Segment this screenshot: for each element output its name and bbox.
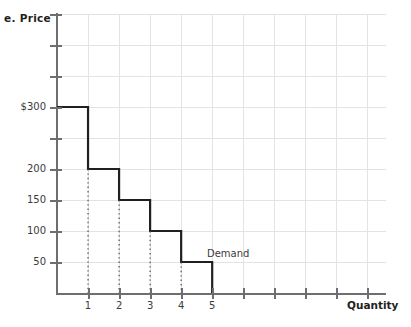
- demand-curve-figure: e.Price Demand Quantity 50100150200$3001…: [0, 0, 411, 327]
- x-axis-tick: [367, 288, 369, 299]
- y-axis-title: Price: [20, 12, 51, 24]
- y-axis-tick-label: 150: [2, 194, 46, 205]
- gridline-vertical: [367, 14, 368, 293]
- y-axis-line: [56, 13, 58, 294]
- x-axis-tick-label: 5: [202, 300, 222, 311]
- x-axis-tick: [119, 288, 121, 299]
- y-axis-tick: [50, 169, 62, 171]
- demand-series-label: Demand: [207, 248, 249, 259]
- x-axis-tick: [274, 288, 276, 299]
- x-axis-tick: [305, 288, 307, 299]
- x-axis-tick-label: 2: [109, 300, 129, 311]
- y-axis-tick: [50, 231, 62, 233]
- x-axis-tick-label: 3: [140, 300, 160, 311]
- gridline-vertical: [305, 14, 306, 293]
- part-letter: e.: [4, 12, 16, 24]
- gridline-vertical: [88, 14, 89, 293]
- y-axis-tick-label: $300: [2, 101, 46, 112]
- y-axis-tick: [50, 107, 62, 109]
- y-axis-tick-label: 200: [2, 163, 46, 174]
- gridline-vertical: [181, 14, 182, 293]
- x-axis-tick: [336, 288, 338, 299]
- y-axis-tick: [50, 76, 62, 78]
- x-axis-tick: [181, 288, 183, 299]
- y-axis-tick-label: 100: [2, 225, 46, 236]
- y-axis-tick: [50, 14, 62, 16]
- y-axis-tick: [50, 138, 62, 140]
- y-axis-tick-label: 50: [2, 256, 46, 267]
- y-axis-title-group: e.Price: [4, 12, 51, 24]
- gridline-vertical: [336, 14, 337, 293]
- x-axis-tick-label: 1: [78, 300, 98, 311]
- gridline-vertical: [119, 14, 120, 293]
- x-axis-title: Quantity: [347, 299, 398, 311]
- y-axis-tick: [50, 45, 62, 47]
- y-axis-tick: [50, 200, 62, 202]
- x-axis-tick: [212, 288, 214, 299]
- x-axis-tick-label: 4: [171, 300, 191, 311]
- gridline-vertical: [150, 14, 151, 293]
- x-axis-tick: [243, 288, 245, 299]
- y-axis-tick: [50, 262, 62, 264]
- x-axis-tick: [150, 288, 152, 299]
- gridline-vertical: [274, 14, 275, 293]
- x-axis-tick: [88, 288, 90, 299]
